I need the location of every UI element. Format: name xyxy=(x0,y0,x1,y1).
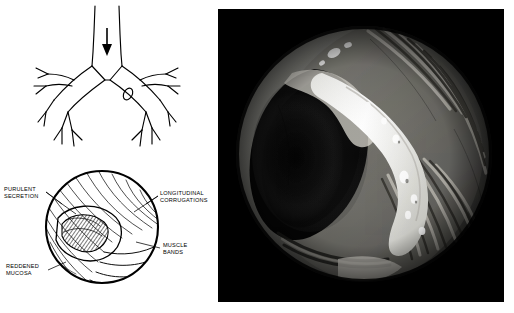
schematic-diagram-panel: PURULENT SECRETION LONGITUDINAL CORRUGAT… xyxy=(0,0,218,313)
endoscopic-photograph-panel xyxy=(218,9,504,302)
endoscopic-photograph xyxy=(218,9,504,302)
tracheobronchial-tree-schematic xyxy=(6,4,212,164)
circular-detail-inset xyxy=(0,160,218,310)
label-reddened-mucosa: REDDENED MUCOSA xyxy=(6,263,54,277)
label-purulent-secretion: PURULENT SECRETION xyxy=(4,186,48,200)
label-longitudinal-corrugations: LONGITUDINAL CORRUGATIONS xyxy=(160,190,216,204)
figure-container: PURULENT SECRETION LONGITUDINAL CORRUGAT… xyxy=(0,0,514,313)
label-muscle-bands: MUSCLE BANDS xyxy=(163,242,215,256)
arrow-marker xyxy=(102,28,112,56)
